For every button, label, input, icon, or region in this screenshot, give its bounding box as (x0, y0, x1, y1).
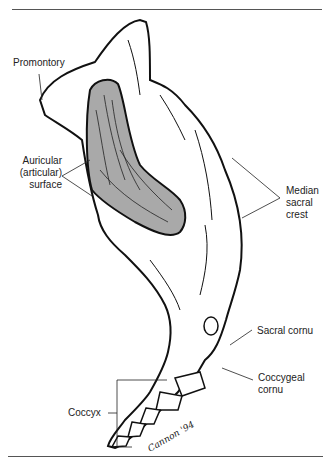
label-coccyx: Coccyx (68, 407, 101, 419)
sacrum-outline (40, 20, 242, 448)
label-median-line3: crest (286, 209, 319, 221)
label-auricular-line1: Auricular (14, 155, 62, 167)
sacral-hiatus (204, 317, 218, 335)
label-coccygeal-cornu: Coccygeal cornu (258, 372, 305, 396)
label-promontory: Promontory (13, 57, 65, 69)
label-median-line1: Median (286, 185, 319, 197)
label-coccygeal-line1: Coccygeal (258, 372, 305, 384)
label-median-line2: sacral (286, 197, 319, 209)
label-median-sacral-crest: Median sacral crest (286, 185, 319, 221)
label-auricular-surface: Auricular (articular) surface (14, 155, 62, 191)
label-sacral-cornu: Sacral cornu (257, 325, 313, 337)
label-auricular-line2: (articular) (14, 167, 62, 179)
label-auricular-line3: surface (14, 179, 62, 191)
label-coccygeal-line2: cornu (258, 384, 305, 396)
